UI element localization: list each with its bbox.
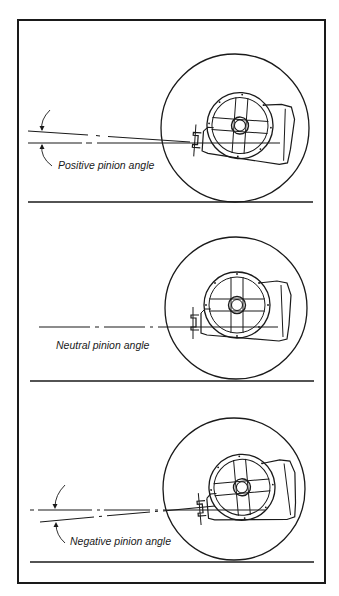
pinion-angle-diagram: Positive pinion angle Neutral pinion ang… (0, 0, 339, 596)
panel-label-neutral: Neutral pinion angle (56, 339, 150, 351)
differential-housing (192, 89, 297, 165)
driveshaft-line (40, 506, 215, 522)
panel-label-negative: Negative pinion angle (70, 535, 171, 547)
panel-negative: Negative pinion angle (30, 418, 314, 562)
driveshaft-line (28, 131, 190, 142)
panel-positive: Positive pinion angle (28, 54, 313, 202)
panel-neutral: Neutral pinion angle (30, 237, 314, 381)
arrow-icon (40, 126, 45, 131)
wheel (165, 237, 307, 379)
arrow-icon (40, 144, 45, 149)
panel-label-positive: Positive pinion angle (58, 159, 154, 171)
arrow-icon (53, 504, 58, 509)
arrow-icon (54, 522, 59, 527)
differential-housing (191, 272, 291, 341)
angle-arc-upper (55, 485, 65, 507)
differential-housing (193, 450, 299, 527)
